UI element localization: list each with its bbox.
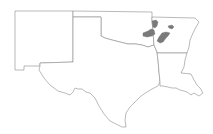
state-louisiana — [157, 53, 203, 96]
regional-map — [0, 0, 213, 134]
state-new-mexico — [15, 11, 73, 70]
state-arkansas — [152, 17, 199, 53]
